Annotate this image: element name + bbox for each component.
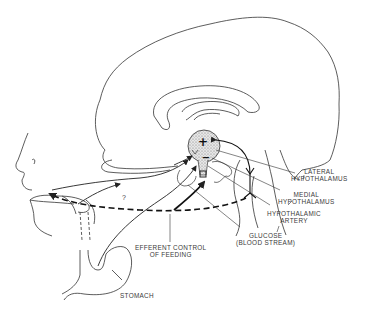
label-lateral-hypothalamus: LATERAL HYPOTHALAMUS	[291, 168, 348, 183]
label-efferent-control: EFFERENT CONTROL OF FEEDING	[135, 244, 206, 259]
face-profile	[16, 133, 106, 275]
feeding-control-diagram: + −	[0, 0, 367, 314]
plus-sign: +	[198, 135, 208, 149]
question-mark: ?	[122, 194, 126, 201]
label-glucose: GLUCOSE (BLOOD STREAM)	[236, 232, 295, 247]
minus-sign: −	[202, 152, 210, 163]
label-medial-hypothalamus: MEDIAL HYPOTHALAMUS	[278, 191, 335, 206]
hypothalamus: + −	[188, 130, 220, 177]
label-stomach: STOMACH	[120, 292, 154, 299]
label-hypothalamic-artery: HYPOTHALAMIC ARTERY	[267, 210, 321, 225]
